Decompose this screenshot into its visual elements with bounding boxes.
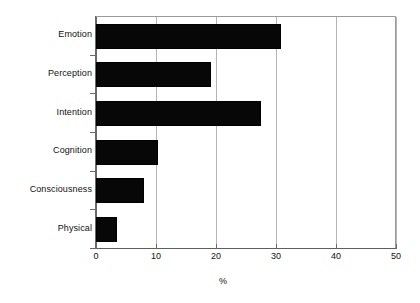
- x-tick-20: [216, 244, 217, 249]
- bar-physical[interactable]: [96, 217, 117, 242]
- x-tick-label-30: 30: [264, 251, 288, 262]
- x-axis-title: %: [0, 276, 420, 286]
- bar-perception[interactable]: [96, 62, 211, 87]
- x-tick-0: [96, 244, 97, 249]
- x-tick-label-50: 50: [384, 251, 408, 262]
- bar-chart: EmotionPerceptionIntentionCognitionConsc…: [0, 0, 420, 303]
- category-label-intention: Intention: [2, 107, 92, 118]
- bar-row: [96, 172, 396, 211]
- x-tick-label-10: 10: [144, 251, 168, 262]
- plot-area: [96, 16, 396, 248]
- bar-row: [96, 17, 396, 56]
- bar-row: [96, 94, 396, 133]
- bar-consciousness[interactable]: [96, 178, 144, 203]
- bar-row: [96, 210, 396, 249]
- bars-group: [96, 17, 396, 249]
- x-axis-title-text: %: [219, 276, 227, 286]
- x-tick-30: [276, 244, 277, 249]
- x-tick-40: [336, 244, 337, 249]
- bar-emotion[interactable]: [96, 24, 281, 49]
- bar-intention[interactable]: [96, 101, 261, 126]
- category-label-perception: Perception: [2, 68, 92, 79]
- category-labels: EmotionPerceptionIntentionCognitionConsc…: [0, 16, 92, 248]
- x-tick-50: [396, 244, 397, 249]
- category-label-physical: Physical: [2, 223, 92, 234]
- x-tick-label-40: 40: [324, 251, 348, 262]
- x-axis-line: [96, 248, 397, 249]
- x-tick-label-0: 0: [84, 251, 108, 262]
- category-label-emotion: Emotion: [2, 29, 92, 40]
- category-label-cognition: Cognition: [2, 145, 92, 156]
- bar-cognition[interactable]: [96, 140, 158, 165]
- bar-row: [96, 56, 396, 95]
- x-tick-label-20: 20: [204, 251, 228, 262]
- category-label-consciousness: Consciousness: [2, 184, 92, 195]
- y-axis-line: [95, 16, 96, 249]
- y-tick: [90, 248, 95, 249]
- gridline-50: [396, 17, 397, 249]
- x-tick-10: [156, 244, 157, 249]
- bar-row: [96, 133, 396, 172]
